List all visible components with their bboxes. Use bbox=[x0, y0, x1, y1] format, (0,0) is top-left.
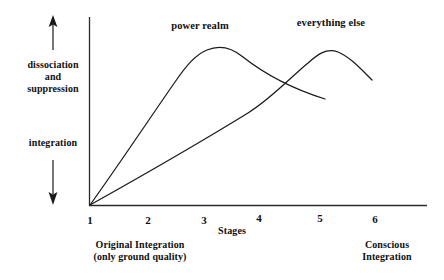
x-tick-1: 1 bbox=[87, 215, 93, 227]
y-annotation-and: and bbox=[45, 72, 61, 83]
curve-label-everything-else: everything else bbox=[297, 17, 365, 28]
caption-conscious-integration-line1: Conscious bbox=[365, 240, 409, 251]
caption-original-integration-line2: (only ground quality) bbox=[93, 252, 186, 263]
y-annotation-suppression: suppression bbox=[27, 84, 79, 95]
curve-everything-else bbox=[90, 51, 372, 205]
x-tick-3: 3 bbox=[201, 215, 207, 227]
curve-label-power-realm: power realm bbox=[171, 20, 229, 31]
caption-conscious-integration-line2: Integration bbox=[362, 252, 411, 263]
y-annotation-dissociation: dissociation bbox=[27, 60, 78, 71]
x-tick-4: 4 bbox=[256, 213, 262, 225]
up-arrow-icon bbox=[49, 15, 58, 50]
diagram-canvas: power realm everything else dissociation… bbox=[0, 0, 444, 280]
x-tick-5: 5 bbox=[317, 213, 323, 225]
down-arrow-icon bbox=[49, 160, 58, 205]
y-annotation-integration: integration bbox=[29, 138, 77, 149]
x-axis-title: Stages bbox=[218, 226, 246, 237]
x-tick-2: 2 bbox=[145, 215, 151, 227]
x-tick-6: 6 bbox=[372, 214, 378, 226]
curve-power-realm bbox=[90, 48, 325, 205]
caption-original-integration-line1: Original Integration bbox=[96, 240, 185, 251]
